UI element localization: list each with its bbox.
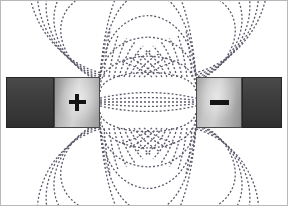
right-magnet-shaft bbox=[242, 77, 282, 128]
arc-line-11 bbox=[100, 16, 196, 77]
outer-line-23 bbox=[37, 0, 259, 75]
pole-fan-line bbox=[153, 46, 172, 77]
left-magnet-shaft bbox=[6, 77, 54, 128]
minus-sign-icon bbox=[210, 100, 229, 105]
gap-line-1 bbox=[100, 98, 196, 101]
pole-fan-line bbox=[161, 42, 177, 77]
outer-line-19 bbox=[54, 0, 242, 79]
plus-sign-icon bbox=[69, 94, 86, 111]
pole-fan-line bbox=[124, 46, 143, 77]
pole-fan-line bbox=[109, 128, 118, 170]
negative-pole-face bbox=[196, 77, 242, 128]
pole-fan-line bbox=[124, 128, 143, 159]
outer-line-24 bbox=[37, 129, 259, 206]
pole-fan-line bbox=[134, 54, 160, 78]
positive-pole-face bbox=[54, 77, 100, 128]
magnetic-field-figure: Magnetic field lines between opposite po… bbox=[0, 0, 288, 206]
arc-line-13 bbox=[100, 0, 196, 77]
arc-line-15 bbox=[100, 0, 196, 77]
gap-line-2 bbox=[100, 104, 196, 107]
outer-line-20 bbox=[54, 125, 242, 206]
arc-line-7 bbox=[100, 56, 196, 86]
pole-fan-line bbox=[153, 128, 172, 159]
pole-fan-line bbox=[161, 128, 177, 163]
